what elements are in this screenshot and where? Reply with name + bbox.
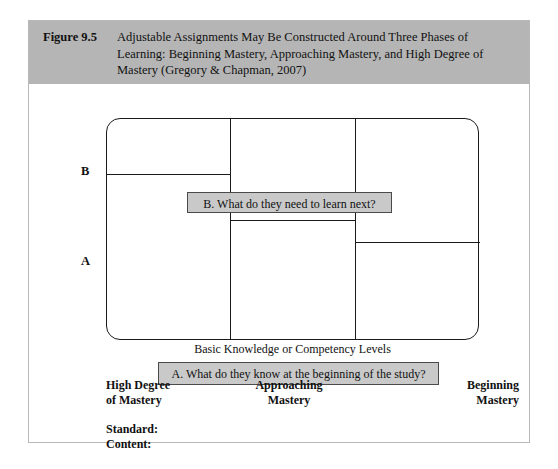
column-heading-approaching-mastery: Approaching Mastery: [219, 378, 359, 408]
column-heading-line-2: of Mastery: [106, 393, 236, 408]
diagram-body: B A B. What do they need to learn next? …: [29, 84, 529, 442]
column-heading-beginning-mastery: Beginning Mastery: [399, 378, 519, 408]
axis-caption: Basic Knowledge or Competency Levels: [106, 342, 479, 357]
standard-field-label: Standard:: [106, 422, 158, 437]
staircase-container: [106, 118, 479, 340]
figure-caption-text: Adjustable Assignments May Be Constructe…: [117, 29, 529, 79]
standard-content-fields: Standard: Content:: [106, 422, 158, 452]
step-line-approaching: [230, 220, 356, 221]
column-divider-2: [355, 119, 356, 339]
figure-number-label: Figure 9.5: [29, 29, 117, 46]
column-heading-high-degree-of-mastery: High Degree of Mastery: [106, 378, 236, 408]
phase-label-b: B: [81, 164, 89, 179]
step-line-beginning: [355, 242, 480, 243]
phase-label-a: A: [81, 254, 90, 269]
column-heading-line-1: Beginning: [399, 378, 519, 393]
column-divider-1: [230, 119, 231, 339]
column-heading-line-2: Mastery: [399, 393, 519, 408]
column-heading-line-1: High Degree: [106, 378, 236, 393]
column-heading-line-1: Approaching: [219, 378, 359, 393]
callout-box-b: B. What do they need to learn next?: [187, 192, 392, 213]
content-field-label: Content:: [106, 437, 158, 452]
column-heading-line-2: Mastery: [219, 393, 359, 408]
step-line-high-degree: [107, 174, 231, 175]
figure-caption-band: Figure 9.5 Adjustable Assignments May Be…: [29, 21, 529, 84]
figure-frame: Figure 9.5 Adjustable Assignments May Be…: [28, 20, 530, 443]
